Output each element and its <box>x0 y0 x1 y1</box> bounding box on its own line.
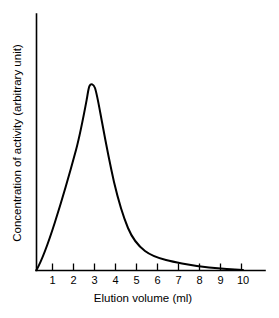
x-tick-label-10: 10 <box>237 274 249 286</box>
x-axis-tick-labels: 1 2 3 4 5 6 7 8 9 10 <box>49 274 249 286</box>
axes-group <box>36 14 265 271</box>
x-tick-label-2: 2 <box>70 274 76 286</box>
x-tick-label-5: 5 <box>133 274 139 286</box>
x-tick-label-6: 6 <box>154 274 160 286</box>
x-tick-label-8: 8 <box>196 274 202 286</box>
x-tick-label-1: 1 <box>49 274 55 286</box>
x-tick-label-9: 9 <box>217 274 223 286</box>
elution-profile-chart: 1 2 3 4 5 6 7 8 9 10 Elution volume (ml)… <box>0 0 279 318</box>
x-axis-title: Elution volume (ml) <box>94 292 193 304</box>
chart-figure: 1 2 3 4 5 6 7 8 9 10 Elution volume (ml)… <box>0 0 279 318</box>
x-tick-label-7: 7 <box>175 274 181 286</box>
x-tick-label-4: 4 <box>112 274 118 286</box>
x-tick-label-3: 3 <box>91 274 97 286</box>
x-axis-tick-marks <box>53 264 242 271</box>
y-axis-title: Concentration of activity (arbitrary uni… <box>11 44 23 242</box>
elution-curve <box>37 84 244 270</box>
